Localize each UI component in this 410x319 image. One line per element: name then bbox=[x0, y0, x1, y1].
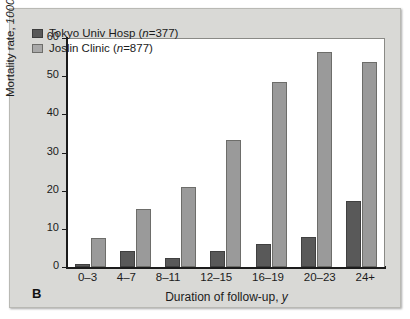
bar bbox=[120, 251, 135, 267]
bar bbox=[256, 244, 271, 267]
bar bbox=[301, 237, 316, 267]
y-axis-tick-label: 50 bbox=[47, 68, 59, 80]
bar bbox=[272, 82, 287, 267]
legend-n-value: =877) bbox=[123, 42, 153, 54]
y-axis-title-unit: 1000/y bbox=[4, 0, 16, 24]
x-axis-tick-label: 24+ bbox=[356, 271, 376, 283]
legend-item: Joslin Clinic (n=877) bbox=[32, 42, 178, 54]
x-axis-tick-label: 16–19 bbox=[252, 271, 284, 283]
bar-group bbox=[346, 39, 377, 267]
bar-group bbox=[301, 39, 332, 267]
bar bbox=[362, 62, 377, 267]
legend-series-name: Joslin Clinic ( bbox=[49, 42, 117, 54]
y-axis-tick-label: 40 bbox=[47, 106, 59, 118]
legend-item: Tokyo Univ Hosp (n=377) bbox=[32, 27, 178, 39]
bar bbox=[181, 187, 196, 267]
x-axis-tick-label: 12–15 bbox=[200, 271, 232, 283]
bar-group bbox=[210, 39, 241, 267]
chart-legend: Tokyo Univ Hosp (n=377)Joslin Clinic (n=… bbox=[32, 27, 178, 57]
x-axis-tick-label: 0–3 bbox=[78, 271, 97, 283]
x-axis-title-unit: y bbox=[282, 290, 288, 304]
x-axis-tick-label: 8–11 bbox=[156, 271, 181, 283]
y-axis-tick-label: 10 bbox=[47, 221, 59, 233]
x-axis-tick-label: 4–7 bbox=[117, 271, 136, 283]
bar-group bbox=[165, 39, 196, 267]
legend-swatch bbox=[32, 29, 43, 38]
plot-area bbox=[68, 38, 385, 267]
bar bbox=[91, 238, 106, 267]
y-axis-tick-label: 30 bbox=[47, 145, 59, 157]
bar bbox=[75, 264, 90, 267]
y-axis-title: Mortality rate, 1000/y bbox=[4, 0, 16, 97]
bar bbox=[210, 251, 225, 267]
bar-groups bbox=[68, 39, 384, 267]
x-axis-title: Duration of follow-up, y bbox=[68, 290, 385, 304]
x-axis-tick-label: 20–23 bbox=[304, 271, 336, 283]
bar-group bbox=[75, 39, 106, 267]
bar-group bbox=[256, 39, 287, 267]
legend-label: Tokyo Univ Hosp (n=377) bbox=[49, 27, 178, 39]
panel-label: B bbox=[32, 286, 41, 301]
y-axis-title-text: Mortality rate, bbox=[4, 24, 16, 97]
x-axis-tick-labels: 0–34–78–1112–1516–1920–2324+ bbox=[68, 271, 385, 283]
bar bbox=[317, 52, 332, 267]
figure-panel: Mortality rate, 1000/y 0102030405060 Tok… bbox=[9, 8, 401, 308]
x-axis-title-text: Duration of follow-up, bbox=[165, 290, 282, 304]
legend-n-value: =377) bbox=[149, 27, 179, 39]
bar-group bbox=[120, 39, 151, 267]
y-axis-tick-label: 0 bbox=[53, 259, 59, 271]
legend-label: Joslin Clinic (n=877) bbox=[49, 42, 153, 54]
bar bbox=[346, 201, 361, 267]
y-axis-tick-label: 20 bbox=[47, 183, 59, 195]
bar bbox=[136, 209, 151, 267]
bar bbox=[226, 140, 241, 267]
legend-swatch bbox=[32, 44, 43, 53]
bar bbox=[165, 258, 180, 267]
legend-series-name: Tokyo Univ Hosp ( bbox=[49, 27, 142, 39]
